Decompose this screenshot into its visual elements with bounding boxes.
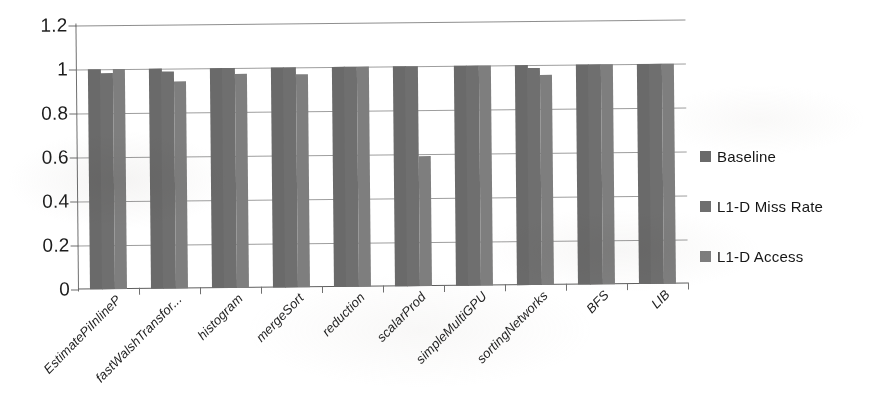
y-axis-label-1.2: 1.2 bbox=[7, 15, 67, 35]
x-axis-label-reduction: reduction bbox=[319, 290, 368, 339]
bar-scalarProd-L1DAccess bbox=[418, 156, 432, 286]
bar-simpleMultiGPU-L1DAccess bbox=[478, 65, 493, 285]
legend-label: L1-D Access bbox=[717, 248, 803, 265]
y-axis-tick-labels: 00.20.40.60.811.2 bbox=[0, 0, 867, 1]
y-tick-0 bbox=[71, 289, 79, 290]
legend-item-l1daccess[interactable]: L1-D Access bbox=[700, 248, 870, 265]
bar-chart: 00.20.40.60.811.2 EstimatePiInlinePfastW… bbox=[0, 0, 870, 406]
bar-histogram-L1DAccess bbox=[235, 73, 250, 288]
legend-label: Baseline bbox=[717, 148, 776, 165]
x-axis-label-scalarProd: scalarProd bbox=[374, 289, 429, 345]
x-axis-label-mergeSort: mergeSort bbox=[253, 290, 307, 344]
x-axis-label-LIB: LIB bbox=[648, 287, 673, 312]
x-axis-label-BFS: BFS bbox=[583, 287, 612, 316]
legend-swatch-icon bbox=[700, 201, 711, 212]
bar-EstimatePiInlineP-L1DAccess bbox=[112, 69, 127, 289]
bar-BFS-L1DAccess bbox=[600, 64, 615, 284]
x-axis-tick-labels: EstimatePiInlinePfastWalshTransfor...his… bbox=[78, 286, 719, 402]
legend-swatch-icon bbox=[700, 251, 711, 262]
y-axis-label-0.4: 0.4 bbox=[9, 191, 69, 211]
legend-label: L1-D Miss Rate bbox=[717, 198, 823, 215]
legend-item-baseline[interactable]: Baseline bbox=[700, 148, 870, 165]
plot-area bbox=[75, 20, 688, 290]
y-axis-label-0: 0 bbox=[10, 279, 70, 299]
bar-sortingNetworks-L1DAccess bbox=[540, 75, 555, 285]
legend-swatch-icon bbox=[700, 151, 711, 162]
y-axis-label-0.6: 0.6 bbox=[9, 147, 69, 167]
bar-fastWalshTransfor-L1DAccess bbox=[174, 82, 189, 289]
x-axis-label-histogram: histogram bbox=[194, 291, 245, 343]
bars-layer bbox=[75, 20, 688, 290]
y-axis-label-0.8: 0.8 bbox=[8, 103, 68, 123]
bar-LIB-L1DAccess bbox=[661, 64, 676, 284]
chart-legend: BaselineL1-D Miss RateL1-D Access bbox=[700, 148, 870, 298]
y-axis-label-1: 1 bbox=[8, 59, 68, 79]
y-axis-label-0.2: 0.2 bbox=[9, 235, 69, 255]
bar-mergeSort-L1DAccess bbox=[296, 74, 311, 288]
legend-item-l1dmissrate[interactable]: L1-D Miss Rate bbox=[700, 198, 870, 215]
bar-reduction-L1DAccess bbox=[356, 67, 371, 287]
